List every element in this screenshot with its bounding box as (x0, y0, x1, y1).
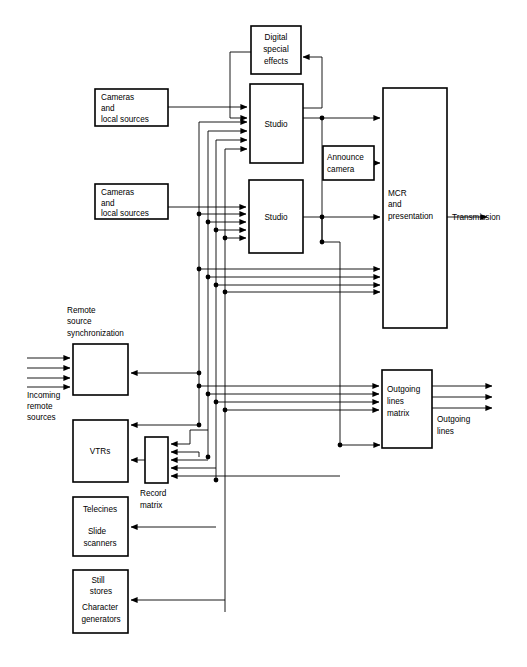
junction-bus1-vtrs (197, 423, 202, 428)
label-transmission: Transmission (452, 213, 501, 222)
box-studio-1[interactable]: Studio (250, 84, 303, 163)
junction-bus4-mcr (223, 290, 228, 295)
telecines-label: Telecines (83, 505, 117, 514)
announce-camera-rect[interactable] (323, 146, 374, 180)
record-matrix-line1: Record (140, 489, 167, 498)
junction-bus4-olm (223, 408, 228, 413)
junction-studio1-out (320, 116, 325, 121)
box-announce-camera[interactable]: Announce camera (323, 146, 374, 180)
stores-label: stores (90, 587, 112, 596)
still-label: Still (91, 576, 104, 585)
junction-studio2-out (320, 215, 325, 220)
junction-bus1-mcr (197, 267, 202, 272)
outgoing-lines-line2: lines (437, 427, 454, 436)
incoming-remote-line3: sources (27, 413, 56, 422)
outgoing-lines-matrix-line2: lines (387, 397, 404, 406)
junction-bus2-record (206, 455, 211, 460)
junction-bus3-olm (214, 400, 219, 405)
box-record-matrix[interactable] (145, 437, 168, 483)
remote-sync-line2: source (67, 317, 92, 326)
remote-sync-line3: synchronization (67, 329, 124, 338)
mcr-presentation-line2: and (388, 200, 402, 209)
junction-bus2-olm (206, 392, 211, 397)
digital-special-effects-label-line1: Digital (265, 33, 288, 42)
diagram-canvas: Digital special effects Cameras and loca… (0, 0, 527, 667)
junction-bus1-olm (197, 384, 202, 389)
cameras-local-sources-2-line3: local sources (101, 209, 149, 218)
incoming-remote-line2: remote (27, 402, 53, 411)
remote-sync-line1: Remote (67, 306, 96, 315)
scanners-label: scanners (83, 539, 116, 548)
studio-2-label: Studio (264, 213, 288, 222)
character-label: Character (82, 603, 118, 612)
record-matrix-line2: matrix (140, 501, 162, 510)
junction-studio-merge (320, 240, 325, 245)
cameras-local-sources-2-line2: and (101, 199, 115, 208)
box-studio-2[interactable]: Studio (249, 180, 303, 253)
announce-camera-line1: Announce (327, 153, 364, 162)
junction-bus4-studio2 (223, 236, 228, 241)
digital-special-effects-label-line2: special (263, 45, 289, 54)
mcr-presentation-line3: presentation (388, 212, 434, 221)
digital-special-effects-label-line3: effects (264, 57, 288, 66)
slide-label: Slide (88, 527, 107, 536)
junction-bus3-mcr (214, 283, 219, 288)
cameras-local-sources-2-line1: Cameras (101, 188, 134, 197)
junction-bus3-studio2 (214, 228, 219, 233)
box-cameras-local-sources-1[interactable]: Cameras and local sources (95, 89, 168, 126)
mcr-presentation-line1: MCR (388, 189, 407, 198)
studio-signal-flow-diagram: Digital special effects Cameras and loca… (0, 0, 527, 667)
box-remote-source-sync[interactable] (73, 344, 128, 395)
junction-olm-feed (338, 443, 343, 448)
cameras-local-sources-1-line2: and (101, 104, 115, 113)
vtrs-label: VTRs (90, 447, 110, 456)
record-matrix-rect[interactable] (145, 437, 168, 483)
junction-bus1-studio2 (197, 212, 202, 217)
box-vtrs[interactable]: VTRs (73, 420, 128, 482)
remote-source-sync-rect[interactable] (73, 344, 128, 395)
announce-camera-line2: camera (327, 165, 355, 174)
junction-bus2-mcr (206, 275, 211, 280)
outgoing-lines-line1: Outgoing (437, 415, 471, 424)
cameras-local-sources-1-line1: Cameras (101, 93, 134, 102)
junction-bus2-studio2 (206, 220, 211, 225)
box-cameras-local-sources-2[interactable]: Cameras and local sources (95, 184, 168, 219)
junction-bus3-record (214, 478, 219, 483)
box-telecines-slide-scanners[interactable]: Telecines Slide scanners (73, 497, 128, 556)
outgoing-lines-matrix-line1: Outgoing (387, 385, 421, 394)
box-still-stores-character-generators[interactable]: Still stores Character generators (73, 570, 128, 633)
studio-1-label: Studio (264, 120, 288, 129)
transmission-text: Transmission (452, 213, 501, 222)
cameras-local-sources-1-line3: local sources (101, 115, 149, 124)
junction-bus1-remote-sync (197, 371, 202, 376)
outgoing-lines-matrix-line3: matrix (387, 409, 409, 418)
box-mcr-presentation[interactable]: MCR and presentation (383, 88, 447, 328)
incoming-remote-line1: Incoming (27, 391, 61, 400)
box-digital-special-effects[interactable]: Digital special effects (251, 26, 301, 74)
box-outgoing-lines-matrix[interactable]: Outgoing lines matrix (382, 370, 432, 448)
generators-label: generators (81, 615, 120, 624)
